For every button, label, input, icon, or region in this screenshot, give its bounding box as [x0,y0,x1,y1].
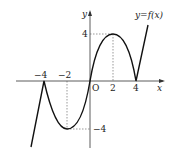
x-tick-neg2: −2 [58,70,71,80]
x-axis-label: x [157,83,162,93]
y-tick-neg4: −4 [93,124,107,134]
x-tick-neg4: −4 [34,70,48,80]
origin-label: O [92,83,99,93]
x-tick-4: 4 [133,83,139,93]
y-axis-arrow-icon [88,10,92,16]
y-axis-label: y [81,9,88,19]
y-tick-4: 4 [82,29,88,39]
x-tick-2: 2 [110,83,116,93]
curve-label: y=f(x) [134,10,164,20]
function-graph: y=f(x) x y O −4 −2 2 4 4 −4 [0,0,177,157]
